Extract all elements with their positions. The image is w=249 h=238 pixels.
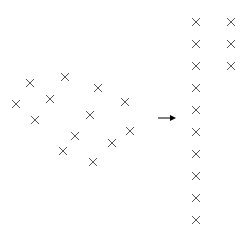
cross-icon: [192, 84, 200, 92]
cross-icon: [192, 62, 200, 70]
cross-icon: [192, 128, 200, 136]
cross-icon: [31, 116, 39, 124]
cross-icon: [94, 84, 102, 92]
arranged-cross-group: [192, 18, 235, 224]
cross-icon: [121, 98, 129, 106]
cross-icon: [192, 216, 200, 224]
cross-icon: [227, 40, 235, 48]
cross-icon: [26, 79, 34, 87]
cross-icon: [192, 172, 200, 180]
cross-icon: [192, 194, 200, 202]
cross-icon: [86, 111, 94, 119]
cross-icon: [192, 40, 200, 48]
cross-icon: [192, 150, 200, 158]
cross-icon: [12, 100, 20, 108]
scattered-cross-group: [12, 73, 134, 166]
cross-icon: [227, 62, 235, 70]
cross-icon: [71, 132, 79, 140]
diagram-canvas: [0, 0, 249, 238]
cross-icon: [192, 106, 200, 114]
cross-icon: [192, 18, 200, 26]
cross-icon: [59, 147, 67, 155]
cross-icon: [126, 127, 134, 135]
cross-icon: [89, 158, 97, 166]
cross-icon: [61, 73, 69, 81]
cross-icon: [108, 139, 116, 147]
cross-icon: [46, 95, 54, 103]
cross-icon: [227, 18, 235, 26]
arrow-icon: [158, 115, 176, 121]
